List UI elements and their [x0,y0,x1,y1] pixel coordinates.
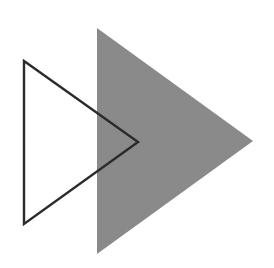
triangles-figure: Two overlapping right-pointing triangles [0,0,274,268]
figure-canvas: Two overlapping right-pointing triangles… [0,0,274,268]
